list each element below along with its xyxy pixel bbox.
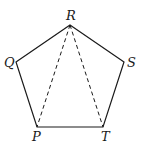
- diagonal-RT: [70, 25, 103, 127]
- pentagon-outline: [16, 25, 124, 127]
- vertex-label-P: P: [31, 129, 41, 144]
- pentagon-diagram: R S T P Q: [0, 0, 146, 148]
- vertex-label-S: S: [127, 55, 136, 70]
- vertex-label-R: R: [65, 8, 76, 23]
- diagonal-RP: [37, 25, 70, 127]
- vertex-label-Q: Q: [4, 55, 15, 70]
- vertex-label-T: T: [101, 129, 111, 144]
